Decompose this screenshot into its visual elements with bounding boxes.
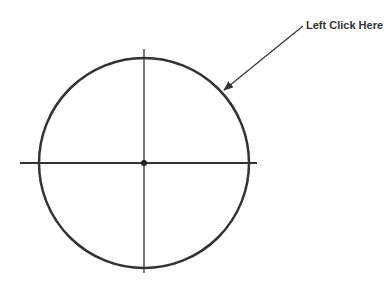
- center-point: [141, 160, 147, 166]
- diagram-canvas: [0, 0, 389, 289]
- annotation-arrow: [224, 26, 303, 90]
- annotation-label: Left Click Here: [306, 19, 383, 31]
